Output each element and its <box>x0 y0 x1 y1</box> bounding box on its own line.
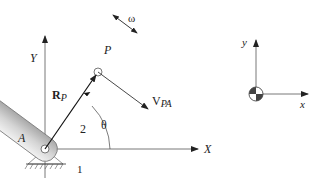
position-vector-label: RP <box>52 88 67 103</box>
angular-velocity-label: ω <box>128 12 135 24</box>
kinematics-diagram: Y X 1 RP P VPA <box>0 0 328 186</box>
position-vector-rp <box>45 75 96 149</box>
center-of-gravity-icon <box>249 87 263 101</box>
ground-label: 1 <box>77 163 83 175</box>
point-p-label: P <box>103 43 112 57</box>
global-x-label: X <box>203 142 212 156</box>
local-y-label: y <box>241 36 247 48</box>
local-frame <box>249 40 308 101</box>
local-x-label: x <box>299 98 305 110</box>
pivot-a-label: A <box>17 131 26 145</box>
right-angle-mark <box>84 92 90 96</box>
global-y-label: Y <box>30 51 38 65</box>
velocity-label: VPA <box>152 94 172 109</box>
angle-theta-label: θ <box>101 118 107 132</box>
link-number-label: 2 <box>80 122 86 136</box>
velocity-vector-vpa <box>98 72 148 109</box>
